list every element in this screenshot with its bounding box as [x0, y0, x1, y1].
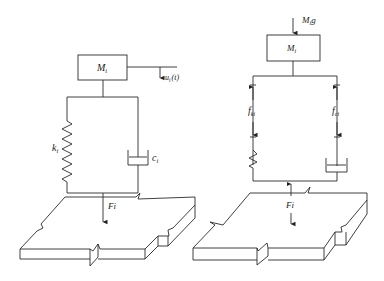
spring-force-label: fki: [248, 105, 255, 117]
gravity-label: Mig: [301, 15, 316, 26]
floor-slab: [193, 187, 367, 265]
damper-force-label: fci: [332, 105, 339, 117]
left-panel: Mi ui(t) ki ci: [20, 55, 195, 266]
force-label: Fi: [285, 200, 294, 210]
damper-icon: [326, 158, 347, 172]
spring-icon: [62, 121, 72, 182]
displacement-label: ui(t): [165, 73, 179, 83]
damper-label: ci: [152, 152, 158, 164]
force-label: Fi: [107, 201, 116, 211]
free-body-diagram: Mi ui(t) ki ci: [0, 0, 384, 281]
right-panel: Mig Mi fki fci: [193, 15, 367, 265]
spring-label: ki: [52, 142, 58, 154]
